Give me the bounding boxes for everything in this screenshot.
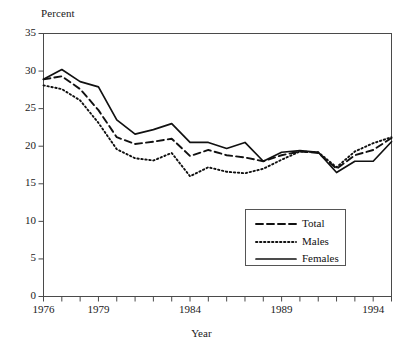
y-tick-label: 10	[10, 214, 36, 226]
plot-area	[0, 0, 403, 348]
series-line-females	[44, 70, 392, 173]
y-tick-label: 35	[10, 26, 36, 38]
series-line-total	[44, 76, 392, 168]
legend-label-total: Total	[302, 217, 324, 229]
legend-label-females: Females	[302, 252, 339, 264]
y-tick-label: 20	[10, 139, 36, 151]
y-tick-label: 5	[10, 251, 36, 263]
x-axis-tickmarks	[44, 297, 392, 302]
line-chart: Percent Year 35302520151050 197619791984…	[0, 0, 403, 348]
x-tick-label: 1984	[170, 303, 210, 315]
x-tick-label: 1994	[353, 303, 393, 315]
y-tick-label: 15	[10, 176, 36, 188]
series-line-males	[44, 85, 392, 176]
y-tick-label: 0	[10, 289, 36, 301]
x-tick-label: 1976	[24, 303, 64, 315]
legend-label-males: Males	[302, 235, 329, 247]
x-tick-label: 1989	[262, 303, 302, 315]
x-tick-label: 1979	[78, 303, 118, 315]
y-axis-tickmarks	[39, 34, 44, 297]
y-tick-label: 30	[10, 64, 36, 76]
y-tick-label: 25	[10, 101, 36, 113]
